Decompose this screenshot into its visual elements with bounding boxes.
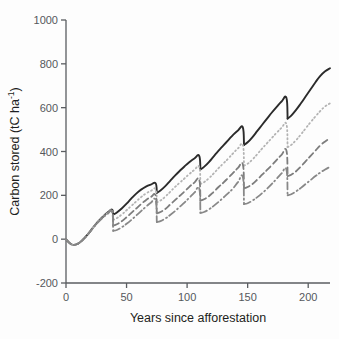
y-axis-title-tail: ) — [8, 87, 22, 91]
series-line-2 — [66, 210, 113, 245]
y-axis-title-main: Carbon stored (tC ha — [8, 99, 22, 216]
y-axis-title-exponent: -1 — [6, 91, 16, 99]
series-line-3 — [244, 149, 288, 188]
x-tick-label: 150 — [238, 291, 256, 303]
series-line-4 — [200, 175, 244, 213]
x-tick-label: 200 — [299, 291, 317, 303]
series-line-4 — [244, 168, 288, 204]
series-line-4 — [288, 167, 330, 195]
series-line-1 — [157, 155, 201, 193]
axis-lines — [66, 20, 330, 283]
axis-ticks — [61, 20, 308, 288]
series-line-1 — [113, 183, 157, 215]
series-line-4 — [66, 211, 113, 245]
series-line-1 — [66, 210, 113, 245]
y-axis-title: Carbon stored (tC ha-1) — [8, 20, 26, 283]
x-tick-label: 100 — [178, 291, 196, 303]
series-line-1 — [244, 97, 288, 145]
series-line-2 — [288, 103, 330, 147]
chart-figure: -20002004006008001000 050100150200 Years… — [0, 0, 339, 339]
series-line-4 — [157, 187, 201, 222]
x-axis-title: Years since afforestation — [66, 311, 330, 325]
x-tick-label: 50 — [120, 291, 132, 303]
series-line-2 — [244, 123, 288, 166]
series-paths — [66, 68, 330, 245]
series-line-1 — [288, 68, 330, 118]
x-tick-label: 0 — [63, 291, 69, 303]
